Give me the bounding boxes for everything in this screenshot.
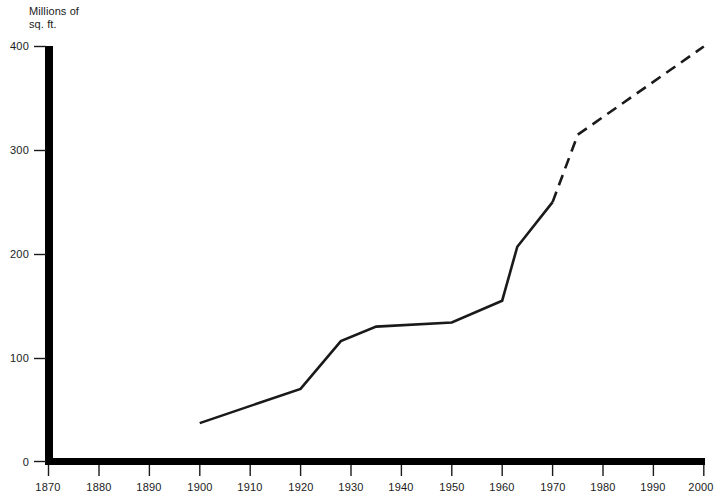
data-line-projected [553,47,704,203]
x-tick-label: 2000 [688,481,713,493]
y-axis-ticks [34,47,46,462]
x-tick-label: 1920 [288,481,313,493]
y-tick-label: 200 [10,248,29,260]
y-tick-label: 300 [10,144,29,156]
x-axis-spine [45,458,705,465]
x-tick-label: 1890 [136,481,161,493]
chart-container: Millions of sq. ft. [0,0,716,501]
y-tick-label: 0 [23,456,29,468]
x-tick-label: 1880 [86,481,111,493]
x-tick-label: 1970 [540,481,565,493]
x-tick-label: 1870 [35,481,60,493]
y-axis-tick-labels: 400 300 200 100 0 [10,40,29,468]
chart-plot-area: 400 300 200 100 0 1870 1880 1890 1900 19… [0,0,716,501]
x-tick-label: 1910 [237,481,262,493]
x-tick-label: 1980 [590,481,615,493]
x-axis-ticks [49,465,704,476]
x-tick-label: 1900 [187,481,212,493]
data-line-actual [200,202,553,423]
x-tick-label: 1930 [338,481,363,493]
x-tick-label: 1940 [388,481,413,493]
x-axis-tick-labels: 1870 1880 1890 1900 1910 1920 1930 1940 … [35,481,713,493]
y-tick-label: 100 [10,352,29,364]
x-tick-label: 1990 [640,481,665,493]
x-tick-label: 1950 [439,481,464,493]
x-tick-label: 1960 [489,481,514,493]
y-tick-label: 400 [10,40,29,52]
y-axis-spine [45,46,53,464]
